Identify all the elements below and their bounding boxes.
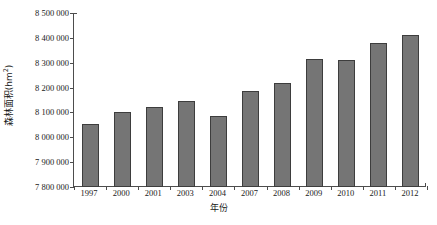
y-axis-title-text: 森林面积(hm2) xyxy=(3,64,16,126)
x-axis-tick-label: 2009 xyxy=(305,189,322,198)
y-axis-title-tail: ) xyxy=(5,64,15,68)
bar xyxy=(242,91,259,187)
bar xyxy=(306,59,323,187)
x-axis-tick-label: 2003 xyxy=(177,189,194,198)
x-axis-tick-label: 2004 xyxy=(209,189,226,198)
y-axis-tick-labels: 7 800 0007 900 0008 000 0008 100 0008 20… xyxy=(16,0,72,200)
y-axis-tick-label: 8 100 000 xyxy=(15,108,69,117)
x-axis-tick-label: 2000 xyxy=(113,189,130,198)
bar xyxy=(338,60,355,187)
x-axis-tick-label: 2001 xyxy=(145,189,162,198)
x-axis-tick-label: 2007 xyxy=(241,189,258,198)
y-axis-tick-mark xyxy=(70,137,74,138)
x-axis-tick-label: 2011 xyxy=(370,189,387,198)
bar xyxy=(370,43,387,187)
bar xyxy=(274,83,291,187)
x-axis-tick-label: 1997 xyxy=(81,189,98,198)
x-axis-tick-mark xyxy=(427,186,428,190)
plot-area xyxy=(73,13,426,187)
bar xyxy=(178,101,195,187)
y-axis-tick-label: 8 400 000 xyxy=(15,34,69,43)
y-axis-tick-mark xyxy=(70,112,74,113)
y-axis-tick-mark xyxy=(70,88,74,89)
bar xyxy=(82,124,99,187)
bar xyxy=(402,35,419,187)
y-axis-tick-mark xyxy=(70,13,74,14)
bar xyxy=(114,112,131,187)
y-axis-tick-label: 7 800 000 xyxy=(15,183,69,192)
x-axis-tick-label: 2010 xyxy=(337,189,354,198)
y-axis-tick-label: 8 500 000 xyxy=(15,9,69,18)
x-axis-cap xyxy=(425,183,426,187)
x-axis-title: 年份 xyxy=(0,201,437,214)
y-axis-tick-label: 7 900 000 xyxy=(15,158,69,167)
bar xyxy=(146,107,163,187)
y-axis-tick-mark xyxy=(70,63,74,64)
bar xyxy=(210,116,227,187)
y-axis-tick-mark xyxy=(70,38,74,39)
y-axis-tick-label: 8 300 000 xyxy=(15,58,69,67)
bar-chart: 森林面积(hm2) 7 800 0007 900 0008 000 0008 1… xyxy=(0,0,437,225)
x-axis-tick-label: 2012 xyxy=(401,189,418,198)
y-axis-tick-label: 8 200 000 xyxy=(15,83,69,92)
y-axis-title-base: 森林面积(hm xyxy=(5,72,15,126)
x-axis-tick-label: 2008 xyxy=(273,189,290,198)
y-axis-tick-label: 8 000 000 xyxy=(15,133,69,142)
y-axis-tick-mark xyxy=(70,162,74,163)
